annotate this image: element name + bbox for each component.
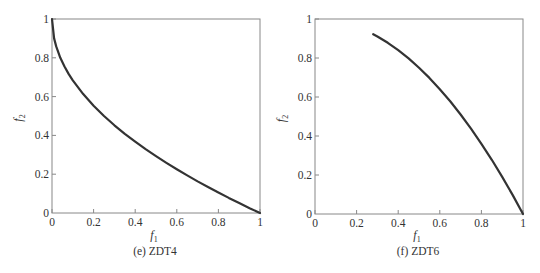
x-tick-label: 0.2	[349, 217, 364, 229]
y-tick-label: 0.4	[298, 130, 313, 142]
x-tick-label: 0	[312, 217, 318, 229]
chart-panel-zdt4: 00.20.40.60.8100.20.40.60.81f1f2(e) ZDT4	[0, 0, 270, 273]
y-tick-label: 0.6	[298, 91, 313, 103]
y-tick-label: 1	[43, 13, 49, 25]
x-axis-label: f1	[150, 228, 157, 244]
plot-frame	[52, 19, 260, 213]
x-tick-label: 0.6	[170, 216, 185, 228]
x-tick-label: 0.8	[211, 216, 226, 228]
y-tick-label: 0.8	[35, 52, 50, 64]
chart-caption: (e) ZDT4	[133, 245, 177, 258]
chart-caption: (f) ZDT6	[397, 245, 440, 258]
x-tick-label: 0.8	[474, 217, 489, 229]
x-tick-label: 0.4	[391, 217, 406, 229]
x-tick-label: 0.4	[128, 216, 143, 228]
y-tick-label: 0.6	[35, 91, 50, 103]
x-tick-label: 0.6	[433, 217, 448, 229]
chart-zdt6: 00.20.40.60.8100.20.40.60.81f1f2(f) ZDT6	[263, 0, 540, 273]
y-tick-label: 0.8	[298, 52, 313, 64]
x-tick-label: 0	[49, 216, 55, 228]
x-tick-label: 0.2	[86, 216, 101, 228]
x-tick-label: 1	[520, 217, 526, 229]
y-axis-label: f2	[11, 114, 27, 121]
chart-panel-zdt6: 00.20.40.60.8100.20.40.60.81f1f2(f) ZDT6	[263, 0, 533, 273]
y-axis-label: f2	[274, 115, 290, 122]
y-tick-label: 0.4	[35, 129, 50, 141]
y-tick-label: 0.2	[35, 168, 50, 180]
y-tick-label: 0	[43, 207, 49, 219]
plot-frame	[315, 19, 523, 214]
pareto-front-line	[373, 34, 523, 214]
y-tick-label: 1	[306, 13, 312, 25]
pareto-front-line	[52, 19, 260, 213]
y-tick-label: 0.2	[298, 169, 313, 181]
x-axis-label: f1	[413, 228, 420, 244]
chart-zdt4: 00.20.40.60.8100.20.40.60.81f1f2(e) ZDT4	[0, 0, 270, 273]
y-tick-label: 0	[306, 208, 312, 220]
